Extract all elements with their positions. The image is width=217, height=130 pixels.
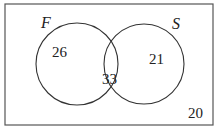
f-only-count: 26 <box>52 44 68 60</box>
s-only-count: 21 <box>149 51 164 67</box>
venn-diagram: F S 26 21 33 20 <box>0 0 217 130</box>
set-f-label: F <box>40 14 51 31</box>
intersection-count: 33 <box>102 71 117 87</box>
outside-count: 20 <box>188 105 203 121</box>
set-s-label: S <box>172 15 180 32</box>
